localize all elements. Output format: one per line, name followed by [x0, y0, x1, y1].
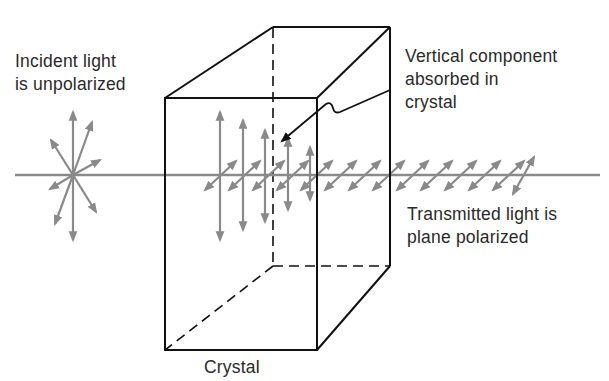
transmitted-label-line2: plane polarized [407, 226, 529, 248]
incident-label-line2: is unpolarized [15, 73, 126, 95]
transmitted-label-line1: Transmitted light is [407, 203, 557, 225]
absorbed-label-line3: crystal [405, 91, 457, 113]
incident-label-line1: Incident light [15, 50, 116, 72]
absorbed-label-line1: Vertical component [405, 45, 557, 67]
crystal-label: Crystal [204, 356, 260, 378]
absorbed-label-line2: absorbed in [405, 68, 499, 90]
